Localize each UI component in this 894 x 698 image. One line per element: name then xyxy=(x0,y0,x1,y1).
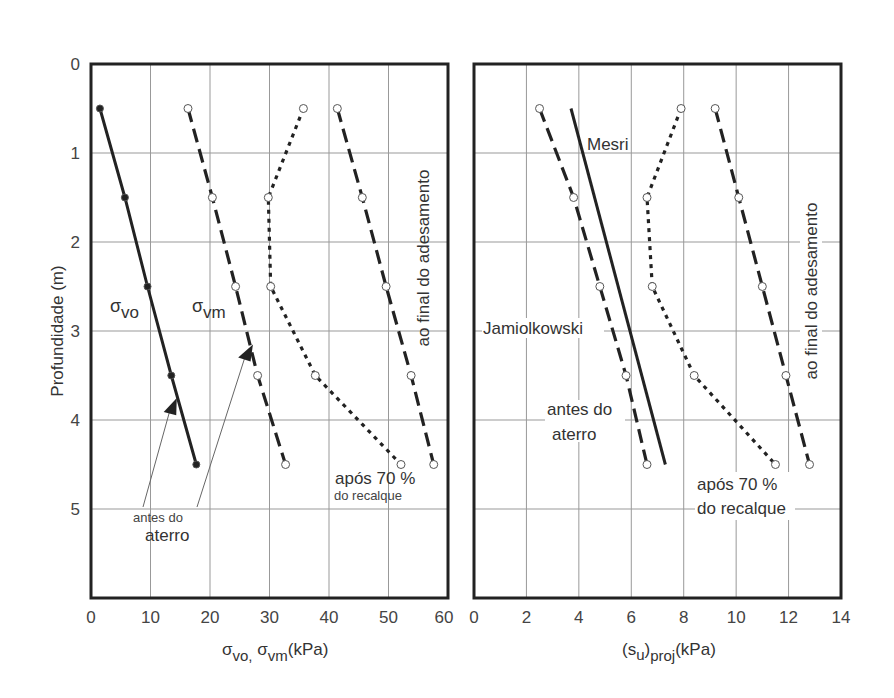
series-line xyxy=(647,109,775,465)
y-ticks: 012345 xyxy=(71,55,80,519)
jamiolkowski-label: Jamiolkowski xyxy=(483,319,583,338)
data-point-marker xyxy=(570,194,578,202)
data-point-marker xyxy=(430,461,438,469)
data-point-marker xyxy=(267,283,275,291)
x-tick-label: 40 xyxy=(320,608,339,627)
x-tick-label: 10 xyxy=(141,608,160,627)
y-tick-label: 2 xyxy=(71,233,80,252)
data-point-marker xyxy=(648,283,656,291)
data-point-marker xyxy=(758,283,766,291)
data-point-marker xyxy=(407,372,415,380)
mesri-label: Mesri xyxy=(587,135,629,154)
x-tick-label: 60 xyxy=(435,608,454,627)
sigma-vo-label: σvo xyxy=(110,296,139,322)
data-point-marker xyxy=(643,194,651,202)
x-tick-label: 6 xyxy=(627,608,636,627)
sigma-vm-label: σvm xyxy=(192,296,226,322)
data-point-marker xyxy=(254,372,262,380)
data-point-marker xyxy=(782,372,790,380)
x-tick-label: 10 xyxy=(727,608,746,627)
x-tick-label: 4 xyxy=(574,608,583,627)
data-point-marker xyxy=(735,194,743,202)
y-tick-label: 1 xyxy=(71,144,80,163)
y-tick-label: 4 xyxy=(71,411,80,430)
data-point-marker xyxy=(121,194,128,201)
right-antes-do-label: antes do xyxy=(547,400,612,419)
arrow-line-svo xyxy=(143,410,170,507)
data-point-marker xyxy=(536,105,544,113)
right-apos-label: após 70 % xyxy=(697,475,777,494)
data-point-marker xyxy=(264,194,272,202)
left-aterro-label: aterro xyxy=(145,526,189,545)
x-tick-label: 14 xyxy=(832,608,851,627)
y-tick-label: 3 xyxy=(71,322,80,341)
data-point-marker xyxy=(382,283,390,291)
data-point-marker xyxy=(397,461,405,469)
data-point-marker xyxy=(208,194,216,202)
x-tick-label: 8 xyxy=(679,608,688,627)
series-line xyxy=(268,109,401,465)
y-tick-label: 0 xyxy=(71,55,80,74)
data-point-marker xyxy=(596,283,604,291)
arrow-line-svm xyxy=(197,357,245,507)
x-tick-label: 0 xyxy=(469,608,478,627)
data-point-marker xyxy=(771,461,779,469)
x-tick-label: 0 xyxy=(86,608,95,627)
y-axis-title: Profundidade (m) xyxy=(48,265,67,396)
data-point-marker xyxy=(232,283,240,291)
left-x-ticks: 0102030405060 xyxy=(86,608,453,627)
data-point-marker xyxy=(643,461,651,469)
data-point-marker xyxy=(622,372,630,380)
right-do-recalque-label: do recalque xyxy=(697,499,786,518)
right-x-axis-title: (su)proj(kPa) xyxy=(622,640,716,664)
left-do-recalque-label: do recalque xyxy=(334,488,402,503)
data-point-marker xyxy=(690,372,698,380)
x-tick-label: 2 xyxy=(522,608,531,627)
chart-canvas: 0102030405060 02468101214 012345 Profund… xyxy=(0,0,894,698)
left-apos-label: após 70 % xyxy=(335,469,415,488)
data-point-marker xyxy=(282,461,290,469)
data-point-marker xyxy=(193,461,200,468)
x-tick-label: 30 xyxy=(260,608,279,627)
data-point-marker xyxy=(806,461,814,469)
left-antes-do-label: antes do xyxy=(133,510,183,525)
data-point-marker xyxy=(96,105,103,112)
data-point-marker xyxy=(358,194,366,202)
data-point-marker xyxy=(144,283,151,290)
data-point-marker xyxy=(711,105,719,113)
right-x-ticks: 02468101214 xyxy=(469,608,850,627)
y-tick-label: 5 xyxy=(71,500,80,519)
data-point-marker xyxy=(299,105,307,113)
data-point-marker xyxy=(333,105,341,113)
x-tick-label: 50 xyxy=(379,608,398,627)
data-point-marker xyxy=(184,105,192,113)
left-chart-series xyxy=(96,105,437,469)
right-aterro-label: aterro xyxy=(552,425,596,444)
data-point-marker xyxy=(168,372,175,379)
right-final-label: ao final do adesamento xyxy=(802,203,821,380)
x-tick-label: 12 xyxy=(779,608,798,627)
x-tick-label: 20 xyxy=(201,608,220,627)
data-point-marker xyxy=(311,372,319,380)
left-final-label: ao final do adesamento xyxy=(414,170,433,347)
left-x-axis-title: σvo, σvm(kPa) xyxy=(222,640,328,664)
data-point-marker xyxy=(677,105,685,113)
